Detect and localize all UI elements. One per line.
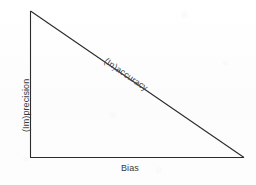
x-axis-label: Bias (121, 163, 139, 173)
triangle-diagram (0, 0, 256, 185)
y-axis-label: (Im)precision (21, 79, 31, 132)
figure-canvas: (Im)precision Bias (In)accuracy (0, 0, 256, 185)
